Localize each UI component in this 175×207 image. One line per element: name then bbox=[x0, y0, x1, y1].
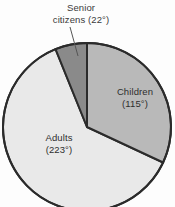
children-label: Children (115°) bbox=[104, 86, 166, 109]
senior-citizens-label: Senior citizens (22°) bbox=[26, 2, 136, 25]
adults-label-line2: (223°) bbox=[28, 144, 90, 156]
children-label-line1: Children bbox=[104, 86, 166, 98]
adults-label-line1: Adults bbox=[28, 132, 90, 144]
senior-citizens-label-line2: citizens (22°) bbox=[26, 14, 136, 26]
children-label-line2: (115°) bbox=[104, 98, 166, 110]
adults-label: Adults (223°) bbox=[28, 132, 90, 155]
senior-citizens-label-line1: Senior bbox=[26, 2, 136, 14]
pie-chart-figure: Senior citizens (22°) Children (115°) Ad… bbox=[0, 0, 175, 207]
